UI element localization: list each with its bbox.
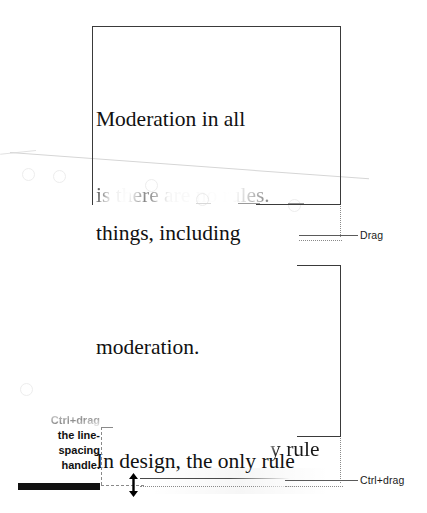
ghost-handle-circle xyxy=(22,168,35,181)
line-spacing-rule xyxy=(140,478,290,479)
line-spacing-callout: Ctrl+drag the line- spacing handle. xyxy=(18,413,100,473)
figure-canvas: Moderation in all things, including mode… xyxy=(0,0,427,513)
drag-handle-rule[interactable] xyxy=(299,235,358,236)
drag-motion-ghost xyxy=(150,468,330,494)
ctrl-drag-label: Ctrl+drag xyxy=(360,474,404,486)
ghost-handle-circle xyxy=(53,170,66,183)
ctrl-drag-guide-vertical xyxy=(340,438,342,483)
drag-guide-vertical xyxy=(340,206,342,237)
callout-line-2: the line- xyxy=(58,429,100,441)
body-line-2: things, including xyxy=(96,214,346,252)
drag-label: Drag xyxy=(360,229,383,241)
line-spacing-guide xyxy=(140,486,300,488)
callout-line-4: handle. xyxy=(61,459,100,471)
callout-bracket-vertical xyxy=(101,427,103,485)
body-line-1: Moderation in all xyxy=(96,100,346,138)
ghost-handle-circle xyxy=(20,383,33,396)
resize-vertical-arrow-icon[interactable] xyxy=(128,473,139,497)
callout-line-1: Ctrl+drag xyxy=(18,413,100,428)
drag-guide-horizontal xyxy=(299,240,342,242)
callout-line-3: spacing xyxy=(58,444,100,456)
callout-emphasis-bar xyxy=(18,483,100,490)
reflow-line-1: y rule xyxy=(270,431,390,467)
body-line-5-ghost: is there are no rules. xyxy=(96,176,346,214)
